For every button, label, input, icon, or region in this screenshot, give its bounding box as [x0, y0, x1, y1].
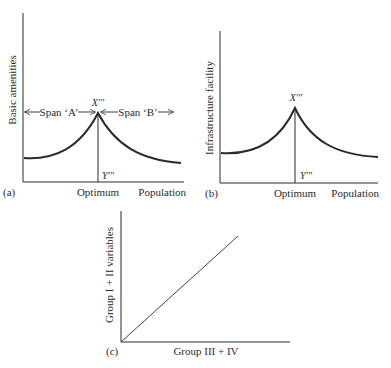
x-tick-optimum: Optimum [274, 187, 317, 199]
y-axis-label: Group I + II variables [103, 227, 115, 323]
panel-a: Span ‘A’ Span ‘B’ X''' Y''' Basic amenit… [3, 13, 186, 199]
y-axis-label: Infrastructure facility [203, 61, 215, 155]
x-axis-label: Group III + IV [173, 345, 238, 357]
span-b-label: Span ‘B’ [118, 106, 157, 118]
panel-c: Group I + II variables Group III + IV (c… [103, 211, 290, 358]
y-axis-label: Basic amenities [6, 55, 18, 124]
linear-relation-line [121, 236, 238, 342]
x-axis-label: Population [138, 186, 186, 198]
panel-b: X''' Y''' Infrastructure facility Optimu… [203, 31, 379, 200]
amenities-curve [24, 113, 181, 163]
infrastructure-curve [221, 108, 378, 157]
peak-label: X''' [289, 92, 303, 103]
panel-label-b: (b) [205, 187, 218, 200]
foot-label: Y''' [102, 170, 115, 181]
x-tick-optimum: Optimum [77, 186, 120, 198]
foot-label: Y''' [300, 170, 313, 181]
x-axis-label: Population [331, 187, 379, 199]
peak-label: X''' [91, 97, 105, 108]
panel-label-a: (a) [3, 186, 16, 199]
panel-label-c: (c) [106, 345, 119, 358]
figure-canvas: Span ‘A’ Span ‘B’ X''' Y''' Basic amenit… [0, 0, 391, 368]
span-a-label: Span ‘A’ [40, 106, 79, 118]
